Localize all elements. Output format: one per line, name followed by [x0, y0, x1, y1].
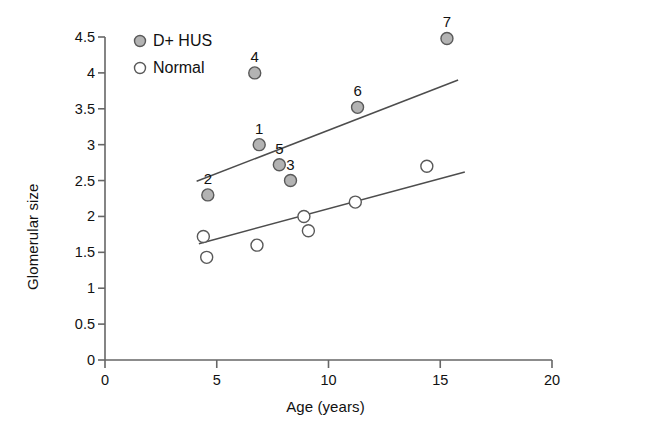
y-tick-label: 1.5	[40, 244, 95, 260]
data-point-marker	[253, 139, 265, 151]
data-points	[197, 32, 453, 263]
data-point-marker	[197, 231, 209, 243]
y-tick-label: 3	[40, 137, 95, 153]
data-point-marker	[201, 251, 213, 263]
y-tick-label: 3.5	[40, 101, 95, 117]
data-point-marker	[441, 32, 453, 44]
x-tick-label: 15	[432, 372, 448, 388]
data-point-marker	[202, 189, 214, 201]
legend-marker-normal	[135, 63, 146, 74]
y-tick-label: 4	[40, 65, 95, 81]
x-tick-label: 20	[544, 372, 560, 388]
legend-marker-d-hus	[135, 36, 146, 47]
data-point-marker	[249, 67, 261, 79]
trend-line-normal	[199, 172, 465, 244]
data-point-marker	[421, 160, 433, 172]
y-tick-label: 0	[40, 352, 95, 368]
data-point-marker	[273, 159, 285, 171]
data-point-label: 1	[255, 120, 263, 137]
data-point-marker	[352, 101, 364, 113]
data-point-marker	[298, 210, 310, 222]
axes	[98, 37, 552, 368]
data-point-label: 2	[204, 170, 212, 187]
plot-canvas	[0, 0, 651, 432]
scatter-plot-figure: 00.511.522.533.544.505101520 2415367 D+ …	[0, 0, 651, 432]
trend-line-d-hus	[197, 80, 458, 181]
x-tick-label: 0	[101, 372, 109, 388]
y-tick-label: 0.5	[40, 316, 95, 332]
data-point-marker	[349, 196, 361, 208]
data-point-marker	[285, 175, 297, 187]
data-point-label: 7	[443, 13, 451, 30]
y-axis-title: Glomerular size	[24, 183, 41, 290]
data-point-label: 4	[251, 48, 259, 65]
data-point-label: 6	[353, 82, 361, 99]
data-point-marker	[302, 225, 314, 237]
legend-label-normal: Normal	[153, 59, 205, 77]
data-point-marker	[251, 239, 263, 251]
legend-label-d-hus: D+ HUS	[153, 32, 212, 50]
x-tick-label: 10	[320, 372, 336, 388]
x-tick-label: 5	[213, 372, 221, 388]
y-tick-label: 2	[40, 208, 95, 224]
data-point-label: 3	[286, 156, 294, 173]
x-axis-title: Age (years)	[0, 398, 651, 415]
y-tick-label: 2.5	[40, 173, 95, 189]
legend-markers	[135, 36, 146, 74]
data-point-label: 5	[275, 140, 283, 157]
y-tick-label: 4.5	[40, 29, 95, 45]
y-tick-label: 1	[40, 280, 95, 296]
